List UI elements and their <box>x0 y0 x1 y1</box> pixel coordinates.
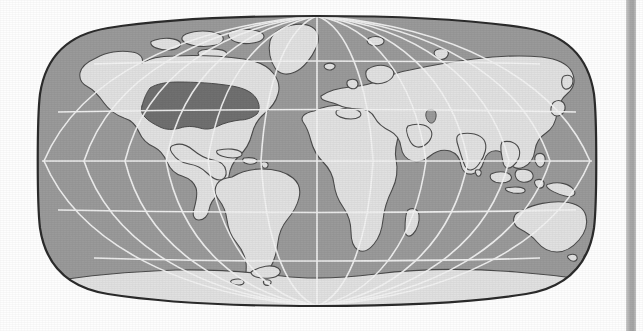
world-map-figure <box>36 14 598 308</box>
page-edge-strip <box>626 0 636 331</box>
page-canvas <box>0 0 643 331</box>
map-grain-overlay <box>36 14 598 308</box>
world-map-svg <box>36 14 598 308</box>
